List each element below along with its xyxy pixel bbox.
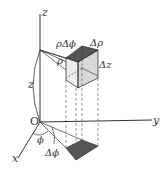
cylindrical-coordinates-diagram: z y x O ρΔϕ Δρ Δz ρ z ϕ Δϕ — [0, 0, 168, 177]
d-z-label: Δz — [98, 59, 112, 70]
rho-label: ρ — [56, 55, 63, 66]
origin-label: O — [30, 115, 39, 128]
z-height-label: z — [27, 78, 34, 91]
x-axis-label: x — [12, 152, 19, 165]
z-axis-label: z — [41, 6, 48, 19]
ray-base — [40, 122, 66, 148]
phi-label: ϕ — [37, 134, 44, 145]
d-rho-label: Δρ — [89, 37, 103, 48]
rho-dphi-label: ρΔϕ — [55, 38, 76, 49]
d-phi-label: Δϕ — [44, 147, 59, 158]
box-front-face — [66, 58, 78, 88]
y-axis — [40, 120, 152, 122]
z-height-arc — [33, 50, 40, 122]
base-patch — [66, 140, 98, 160]
y-axis-label: y — [152, 114, 160, 127]
